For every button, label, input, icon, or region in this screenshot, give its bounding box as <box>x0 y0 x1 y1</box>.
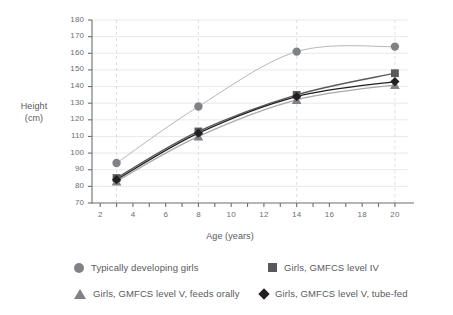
y-axis-tick-label: 80 <box>58 181 84 190</box>
series-line <box>117 46 395 163</box>
y-axis-tick-label: 150 <box>58 64 84 73</box>
x-axis-tick-label: 16 <box>320 210 338 219</box>
y-axis-title-line2: (cm) <box>8 112 60 124</box>
y-axis-tick-label: 100 <box>58 148 84 157</box>
y-axis-title: Height (cm) <box>8 100 60 124</box>
x-axis-title: Age (years) <box>180 230 280 242</box>
triangle-marker-icon <box>74 289 86 299</box>
legend-label: Girls, GMFCS level V, feeds orally <box>93 288 240 299</box>
legend-item-gmfcs-level-v-tube-fed: Girls, GMFCS level V, tube-fed <box>260 288 408 299</box>
data-point-circle <box>112 159 120 167</box>
x-axis-tick-label: 10 <box>222 210 240 219</box>
x-axis-tick-label: 20 <box>386 210 404 219</box>
y-axis-tick-label: 140 <box>58 81 84 90</box>
circle-marker-icon <box>74 263 84 273</box>
x-axis-tick-label: 8 <box>189 210 207 219</box>
y-axis-tick-label: 70 <box>58 198 84 207</box>
x-axis-tick-label: 18 <box>353 210 371 219</box>
legend-item-gmfcs-level-v-feeds-orally: Girls, GMFCS level V, feeds orally <box>74 288 240 299</box>
y-axis-tick-label: 110 <box>58 131 84 140</box>
x-axis-tick-label: 6 <box>157 210 175 219</box>
growth-chart-figure: Height (cm) Age (years) Typically develo… <box>0 0 453 315</box>
data-point-circle <box>391 42 399 50</box>
series-line <box>117 82 395 180</box>
legend-label: Girls, GMFCS level IV <box>284 262 379 273</box>
y-axis-tick-label: 130 <box>58 98 84 107</box>
legend-item-typically-developing-girls: Typically developing girls <box>74 262 199 273</box>
data-point-circle <box>292 47 300 55</box>
x-axis-tick-label: 4 <box>124 210 142 219</box>
legend-label: Typically developing girls <box>91 262 199 273</box>
y-axis-tick-label: 180 <box>58 15 84 24</box>
y-axis-tick-label: 170 <box>58 31 84 40</box>
chart-legend: Typically developing girls Girls, GMFCS … <box>60 258 448 314</box>
y-axis-tick-label: 90 <box>58 164 84 173</box>
legend-label: Girls, GMFCS level V, tube-fed <box>275 288 408 299</box>
series-line <box>117 73 395 178</box>
x-axis-tick-label: 12 <box>255 210 273 219</box>
data-point-circle <box>194 102 202 110</box>
diamond-marker-icon <box>258 288 269 299</box>
y-axis-tick-label: 120 <box>58 114 84 123</box>
legend-item-gmfcs-level-iv: Girls, GMFCS level IV <box>268 262 379 273</box>
x-axis-tick-label: 2 <box>91 210 109 219</box>
x-axis-tick-label: 14 <box>288 210 306 219</box>
y-axis-title-line1: Height <box>8 100 60 112</box>
data-point-square <box>391 69 399 77</box>
y-axis-tick-label: 160 <box>58 48 84 57</box>
square-marker-icon <box>268 263 277 272</box>
